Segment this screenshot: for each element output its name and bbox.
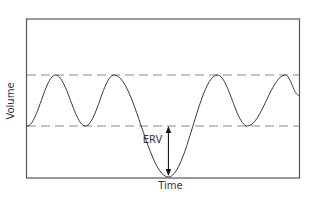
x-axis-label: Time bbox=[157, 180, 182, 191]
plot-frame bbox=[27, 19, 300, 178]
erv-diagram: ERV Time Volume bbox=[0, 0, 312, 197]
erv-arrowhead-down bbox=[166, 169, 172, 176]
y-axis-label: Volume bbox=[5, 82, 16, 119]
erv-arrowhead-up bbox=[166, 126, 172, 133]
erv-label: ERV bbox=[143, 134, 163, 145]
